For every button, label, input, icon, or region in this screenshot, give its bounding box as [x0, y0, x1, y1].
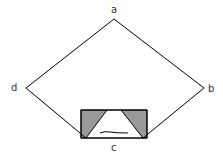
left-shaded-triangle	[81, 110, 107, 138]
outer-shape	[26, 19, 204, 138]
label-b: b	[208, 83, 214, 94]
right-shaded-triangle	[121, 110, 147, 138]
squiggle-mark	[100, 132, 128, 133]
label-d: d	[11, 82, 17, 93]
diagram-canvas: a b c d	[0, 0, 223, 159]
label-c: c	[111, 142, 117, 153]
label-a: a	[111, 4, 117, 15]
